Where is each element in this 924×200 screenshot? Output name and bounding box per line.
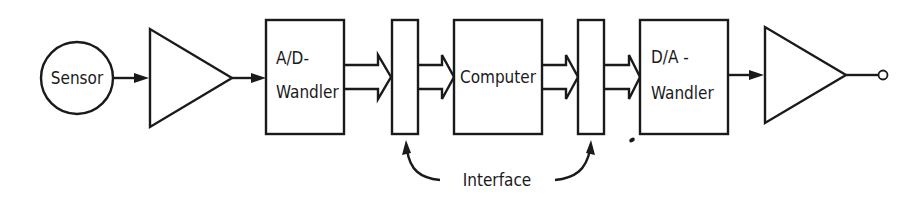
- arrow-dac-to-amplifier: [728, 70, 764, 80]
- ink-mark: [628, 137, 635, 143]
- interface-label: Interface: [463, 170, 531, 190]
- computer-block: Computer: [454, 20, 542, 134]
- adc-label-line2: Wandler: [276, 82, 339, 102]
- input-amplifier-triangle: [150, 29, 232, 127]
- dac-block: D/A - Wandler: [640, 20, 728, 134]
- output-terminal: [846, 71, 888, 80]
- arrow-sensor-to-amplifier: [113, 73, 149, 83]
- interface-block-2: [578, 20, 604, 134]
- interface-block-1: [392, 20, 418, 134]
- dac-label-line1: D/A -: [651, 47, 689, 67]
- adc-label-line1: A/D-: [276, 48, 309, 68]
- dac-label-line2: Wandler: [651, 83, 714, 103]
- bus-arrow-computer-to-interface: [542, 55, 578, 99]
- computer-label: Computer: [460, 67, 537, 87]
- bus-arrow-interface-to-computer: [418, 55, 454, 99]
- signal-chain-diagram: Sensor A/D- Wandler Computer D/A - Wandl…: [0, 0, 924, 200]
- interface-callout: Interface: [402, 140, 595, 190]
- sensor-label: Sensor: [51, 68, 104, 88]
- output-amplifier-triangle: [765, 27, 846, 123]
- adc-block: A/D- Wandler: [266, 20, 344, 134]
- arrow-amplifier-to-adc: [232, 73, 266, 83]
- bus-arrow-interface-to-dac: [604, 55, 640, 99]
- sensor-node: Sensor: [41, 42, 113, 114]
- bus-arrow-adc-to-interface: [344, 55, 391, 99]
